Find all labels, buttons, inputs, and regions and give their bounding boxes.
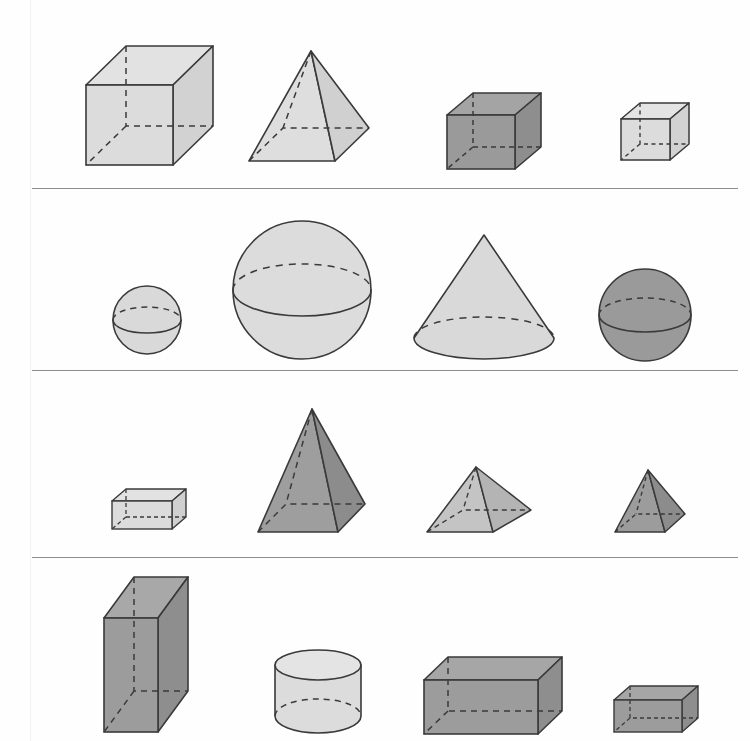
square-pyramid-tall-dark[interactable] bbox=[250, 404, 372, 540]
worksheet-canvas bbox=[0, 0, 750, 741]
divider-row-1 bbox=[32, 188, 738, 189]
square-pyramid-light[interactable] bbox=[243, 45, 375, 170]
sphere-small-light[interactable] bbox=[110, 283, 184, 357]
sphere-large-light[interactable] bbox=[229, 217, 375, 363]
rect-prism-wide-dark[interactable] bbox=[420, 652, 566, 740]
cube-medium-dark[interactable] bbox=[442, 88, 546, 176]
margin-rule bbox=[30, 0, 31, 741]
square-pyramid-small-dark[interactable] bbox=[610, 466, 690, 540]
cylinder-light[interactable] bbox=[270, 646, 366, 738]
divider-row-2 bbox=[32, 370, 738, 371]
cube-small-light[interactable] bbox=[617, 99, 693, 167]
divider-row-3 bbox=[32, 557, 738, 558]
rect-prism-tiny-dark[interactable] bbox=[610, 682, 702, 738]
sphere-medium-dark[interactable] bbox=[595, 265, 695, 365]
cube-large-light[interactable] bbox=[78, 38, 218, 173]
cone-light[interactable] bbox=[408, 230, 560, 362]
rect-prism-tall-dark[interactable] bbox=[100, 572, 192, 737]
square-pyramid-wide-mid[interactable] bbox=[423, 462, 535, 540]
rect-prism-small-light[interactable] bbox=[108, 485, 190, 533]
